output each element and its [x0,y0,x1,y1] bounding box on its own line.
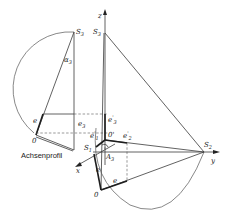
label-e-left: e [33,117,37,125]
caption-achsenprofil: Achsenprofil [21,151,63,160]
left-double-line-b [36,137,73,151]
label-S2: S2 [204,141,212,150]
S3-to-S2-line [105,33,204,152]
label-y-axis: y [210,157,216,165]
label-O-left: 0 [32,137,37,145]
label-S1: S1 [84,144,92,153]
label-S3-left: S3 [76,28,84,37]
e2-prime-vector [105,140,127,143]
label-O-bottom: 0 [94,191,99,199]
label-S3-right: S3 [93,28,101,37]
label-x-axis: x [76,167,80,175]
label-e3-left: e3 [78,120,85,129]
right-construction [75,9,220,209]
label-A3: A3 [105,153,114,162]
left-semicircle-arc [13,32,74,133]
e1-prime-vector [96,140,105,147]
z-axis-arrow-icon [103,9,107,15]
label-alpha3: α3 [64,56,72,65]
y-axis-arrow-icon [213,150,220,154]
right-angle-dot [104,147,105,148]
label-z-axis: z [97,12,102,20]
S3-to-O-line [101,33,104,190]
label-e1-prime: e'1 [90,130,99,141]
label-e3-prime: e'3 [108,114,117,125]
label-O-prime: 0' [108,131,114,139]
left-double-line-a [36,135,74,150]
label-e2-prime: e'2 [123,130,132,141]
label-e-lower-left: e [96,166,100,174]
label-e-lower-right: e [113,177,117,185]
axial-profile-diagram: S3 α3 e e3 0 Achsenprofil [0,0,229,220]
